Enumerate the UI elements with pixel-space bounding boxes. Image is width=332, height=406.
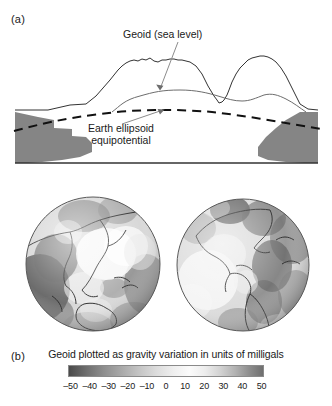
ellipsoid-annotation-label: Earth ellipsoid equipotential (88, 122, 154, 146)
colorbar-tick: –30 (99, 381, 118, 391)
colorbar-tick: –40 (80, 381, 99, 391)
colorbar-tick: –10 (137, 381, 156, 391)
panel-a-label: (a) (11, 13, 25, 25)
colorbar-tick-labels: –50 –40 –30 –20 –10 0 10 20 30 40 50 (61, 381, 271, 391)
western-hemisphere-globe (172, 194, 314, 343)
colorbar-tick: 40 (233, 381, 252, 391)
cross-section-diagram (0, 0, 332, 172)
eastern-hemisphere-globe (22, 192, 164, 341)
panel-a-cross-section: (a) Geoid (sea level) Earth ellipsoid eq… (0, 0, 332, 172)
colorbar-tick: –20 (118, 381, 137, 391)
colorbar-tick: –50 (61, 381, 80, 391)
ellipsoid-annotation-line1: Earth ellipsoid (88, 122, 154, 134)
colorbar-tick: 50 (252, 381, 271, 391)
colorbar-tick: 10 (176, 381, 195, 391)
legend-caption: Geoid plotted as gravity variation in un… (0, 348, 332, 361)
geoid-colorbar-gradient (68, 365, 264, 377)
ellipsoid-annotation-line2: equipotential (88, 134, 154, 146)
colorbar-tick: 20 (195, 381, 214, 391)
colorbar-row (68, 365, 264, 378)
geoid-legend: Geoid plotted as gravity variation in un… (0, 348, 332, 391)
panel-b-globes: (b) (0, 172, 332, 347)
colorbar-tick: 0 (156, 381, 175, 391)
colorbar-tick: 30 (214, 381, 233, 391)
geoid-annotation-label: Geoid (sea level) (123, 28, 202, 40)
